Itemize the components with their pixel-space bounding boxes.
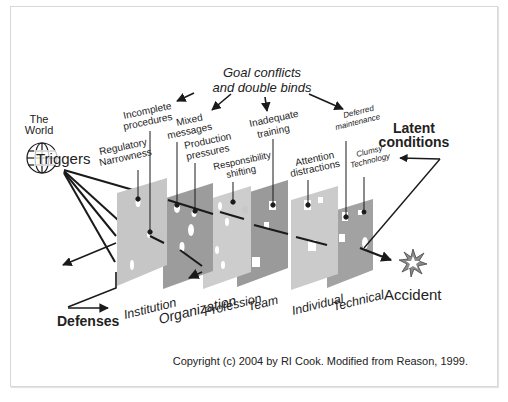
the-world-label: The World — [25, 113, 54, 136]
copyright-text: Copyright (c) 2004 by RI Cook. Modified … — [173, 355, 468, 367]
triggers-label: Triggers — [36, 150, 90, 167]
swiss-cheese-diagram: Goal conflicts and double binds The Worl… — [0, 0, 508, 402]
accident-label: Accident — [384, 286, 442, 303]
latent-conditions-label: Latent conditions — [379, 120, 450, 150]
latent-labels: Regulatory Narrowness Incomplete procedu… — [98, 100, 392, 180]
defense-layers — [117, 178, 373, 290]
svg-text:conditions: conditions — [379, 134, 450, 150]
svg-text:Goal conflicts: Goal conflicts — [223, 65, 302, 80]
goal-conflict-arrows — [177, 93, 343, 111]
layer-labels: Institution Organization Profession Team… — [122, 287, 386, 327]
svg-text:World: World — [25, 124, 54, 136]
latent-arrows — [364, 158, 440, 248]
defenses-label: Defenses — [57, 313, 119, 329]
svg-text:and double binds: and double binds — [212, 80, 312, 95]
layer-institution — [117, 178, 167, 286]
goal-conflicts-label: Goal conflicts and double binds — [212, 65, 312, 95]
accident-burst-icon — [399, 249, 427, 277]
defense-arrows — [63, 243, 116, 308]
